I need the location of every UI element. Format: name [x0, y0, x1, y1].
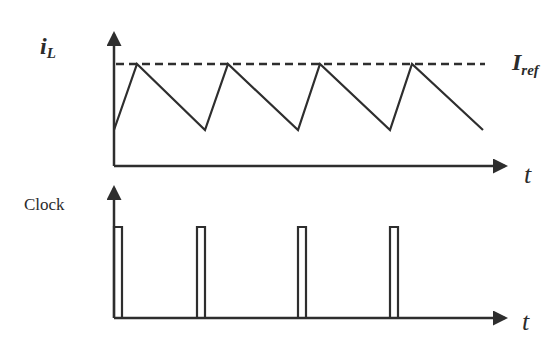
- inductor-current-waveform: [114, 64, 483, 130]
- clock-label: Clock: [24, 195, 65, 214]
- bottom-plot: Clock t: [24, 188, 530, 336]
- top-plot: iL Iref t: [40, 33, 541, 189]
- il-label: iL: [40, 33, 56, 61]
- top-t-label: t: [524, 160, 532, 189]
- current-mode-control-diagram: iL Iref t Clock t: [0, 0, 559, 341]
- clock-pulse: [390, 227, 398, 318]
- clock-pulse: [298, 227, 306, 318]
- clock-pulses: [114, 227, 398, 318]
- clock-pulse: [197, 227, 205, 318]
- bottom-t-label: t: [522, 307, 530, 336]
- iref-label: Iref: [511, 49, 541, 78]
